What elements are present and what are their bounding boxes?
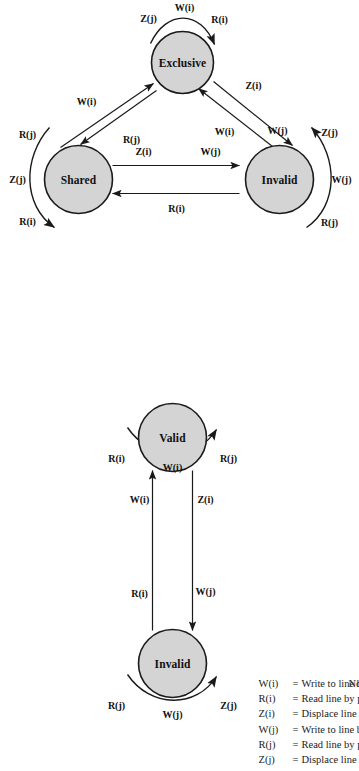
label-a-invalid-loop-zj: Z(j) — [220, 700, 237, 711]
node-label-valid-a: Valid — [159, 431, 185, 443]
label-b-invalid-to-shared-ri: R(i) — [168, 203, 185, 214]
label-b-shared-to-exclusive-wi: W(i) — [76, 96, 95, 107]
label-a-invalid-loop-wj: W(j) — [162, 709, 182, 720]
note-line-2: given line in cache i — [348, 690, 359, 705]
label-b-invalid-loop-wj: W(j) — [331, 174, 351, 185]
label-b-shared-to-invalid-wj: W(j) — [200, 146, 220, 157]
legend-item-zi: Z(i)=Displace line by cache i — [258, 705, 359, 720]
label-b-exclusive-loop-ri: R(i) — [211, 14, 228, 25]
rotated-figure-canvas: Invalid Valid Shared Invalid Exclusive R… — [0, 0, 359, 771]
legend-item-rj: R(j)=Read line by processor j (j ≠ i) — [258, 736, 359, 751]
label-a-valid-loop-wi: W(i) — [162, 462, 181, 473]
legend-text-zj: Displace line by cache j (j ≠ i) — [301, 753, 359, 764]
legend-item-wj: W(j)=Write to line by processor j (j ≠ i… — [258, 721, 359, 736]
legend-item-zj: Z(j)=Displace line by cache j (j ≠ i) — [258, 751, 359, 766]
label-a-v-to-i-zi: Z(i) — [197, 494, 213, 505]
legend-eq-2: = — [292, 705, 301, 720]
label-a-invalid-loop-rj: R(j) — [107, 700, 124, 711]
label-b-invalid-loop-zj: Z(j) — [321, 127, 338, 138]
label-b-exclusive-to-invalid-wj: W(j) — [267, 125, 287, 136]
label-a-i-to-v-wi: W(i) — [129, 494, 148, 505]
node-label-invalid-b: Invalid — [261, 173, 297, 185]
legend-text-zi: Displace line by cache i — [301, 707, 359, 718]
legend-text-rj: Read line by processor j (j ≠ i) — [301, 738, 359, 749]
node-label-shared: Shared — [60, 173, 96, 185]
edge-b-invalid-to-exclusive — [198, 88, 272, 146]
figure-page: Invalid Valid Shared Invalid Exclusive R… — [0, 0, 359, 771]
label-b-exclusive-loop-wi: W(i) — [174, 2, 193, 13]
label-b-shared-loop-ri: R(i) — [19, 216, 36, 227]
figure-canvas: Invalid Valid Shared Invalid Exclusive R… — [0, 0, 359, 771]
legend-block: W(i)=Write to line by processor i R(i)=R… — [258, 675, 359, 766]
label-a-valid-loop-rj: R(j) — [219, 453, 236, 464]
label-b-invalid-to-exclusive-wi: W(i) — [214, 126, 233, 137]
label-a-valid-loop-ri: R(i) — [108, 453, 125, 464]
label-a-v-to-i-wj: W(j) — [195, 586, 215, 597]
legend-eq-4: = — [292, 736, 301, 751]
diagram-a-group — [127, 403, 216, 700]
label-b-shared-loop-rj: R(j) — [18, 129, 35, 140]
legend-key-wj: W(j) — [258, 721, 292, 736]
label-b-shared-to-invalid-zi: Z(i) — [135, 146, 151, 157]
legend-key-zj: Z(j) — [258, 751, 292, 766]
note-block: Note: State diagrams are for a given lin… — [348, 675, 359, 705]
legend-key-wi: W(i) — [258, 675, 292, 690]
legend-key-rj: R(j) — [258, 736, 292, 751]
legend-eq-1: = — [292, 690, 301, 705]
legend-text-wj: Write to line by processor j (j ≠ i) — [301, 723, 359, 734]
note-line-1: Note: State diagrams are for a — [348, 677, 359, 688]
label-b-exclusive-loop-zj: Z(j) — [140, 13, 157, 24]
legend-eq-3: = — [292, 721, 301, 736]
legend-key-zi: Z(i) — [258, 705, 292, 720]
label-b-exclusive-to-invalid-zi: Z(i) — [245, 80, 261, 91]
legend-item-wi: W(i)=Write to line by processor i — [258, 675, 359, 690]
legend-eq-0: = — [292, 675, 301, 690]
legend-item-ri: R(i)=Read line by processor i — [258, 690, 359, 705]
figure-vector-layer — [0, 0, 359, 771]
node-label-exclusive: Exclusive — [158, 56, 206, 68]
diagram-b-group — [29, 18, 330, 227]
label-b-exclusive-to-shared-rj: R(j) — [122, 134, 139, 145]
label-b-invalid-loop-rj: R(j) — [320, 217, 337, 228]
label-a-i-to-v-ri: R(i) — [131, 588, 148, 599]
legend-key-ri: R(i) — [258, 690, 292, 705]
label-b-shared-loop-zj: Z(j) — [9, 174, 26, 185]
node-label-invalid-a: Invalid — [154, 657, 190, 669]
legend-eq-5: = — [292, 751, 301, 766]
